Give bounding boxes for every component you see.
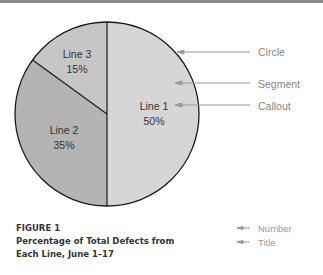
figure-caption: FIGURE 1 Percentage of Total Defects fro… xyxy=(16,222,174,261)
annotation-title: Title xyxy=(258,237,276,248)
label-line-2: Line 2 xyxy=(50,124,79,136)
label-line-3: Line 3 xyxy=(63,48,92,60)
slice-line-1 xyxy=(107,22,199,206)
figure-title-line2: Each Line, June 1–17 xyxy=(16,248,174,261)
pct-line-1: 50% xyxy=(143,115,164,127)
arrow-number-head xyxy=(237,227,243,230)
annotation-circle: Circle xyxy=(258,46,285,58)
figure-number: FIGURE 1 xyxy=(16,222,174,235)
arrow-title-head xyxy=(237,241,243,244)
annotation-segment: Segment xyxy=(258,78,300,90)
figure-title-line1: Percentage of Total Defects from xyxy=(16,235,174,248)
arrow-circle-head xyxy=(177,50,184,54)
pct-line-3: 15% xyxy=(66,63,87,75)
annotation-number: Number xyxy=(258,223,292,234)
pct-line-2: 35% xyxy=(53,139,74,151)
label-line-1: Line 1 xyxy=(140,100,169,112)
annotation-callout: Callout xyxy=(258,100,291,112)
